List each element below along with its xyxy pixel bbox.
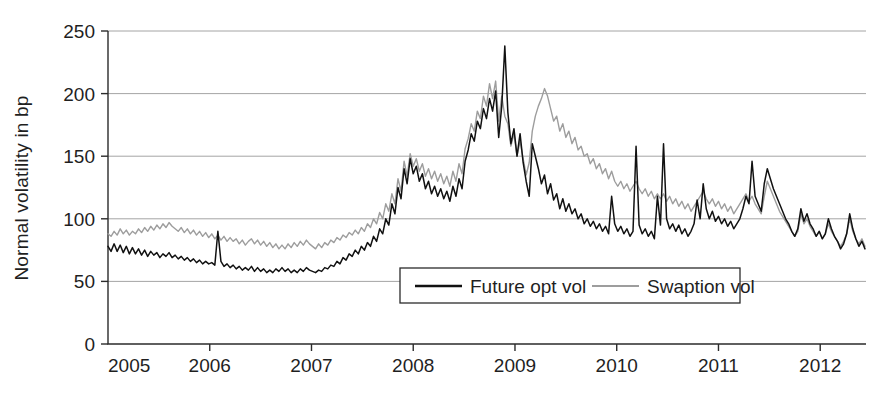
y-tick-label-150: 150 [63, 146, 95, 167]
y-tick-label-100: 100 [63, 209, 95, 230]
x-tick-label-2008: 2008 [392, 355, 434, 376]
x-axis-ticks: 20052006200720082009201020112012 [108, 344, 841, 376]
y-axis-title: Normal volatility in bp [11, 95, 32, 280]
series-lines [108, 46, 865, 273]
x-tick-label-2011: 2011 [698, 355, 739, 376]
x-tick-label-2006: 2006 [189, 355, 231, 376]
y-tick-label-200: 200 [63, 84, 95, 105]
chart-container: Normal volatility in bp 050100150200250 … [0, 0, 885, 413]
x-tick-label-2005: 2005 [108, 355, 150, 376]
legend-label-future-opt-vol: Future opt vol [470, 276, 586, 297]
x-tick-label-2009: 2009 [494, 355, 536, 376]
y-tick-label-50: 50 [74, 271, 95, 292]
chart-legend: Future opt vol Swaption vol [400, 268, 755, 303]
x-tick-label-2012: 2012 [799, 355, 841, 376]
x-tick-label-2007: 2007 [290, 355, 332, 376]
grid-lines [108, 31, 866, 281]
x-tick-label-2010: 2010 [596, 355, 638, 376]
y-tick-label-0: 0 [84, 334, 95, 355]
y-tick-label-250: 250 [63, 21, 95, 42]
legend-label-swaption-vol: Swaption vol [647, 276, 755, 297]
y-axis-ticks: 050100150200250 [63, 21, 108, 355]
volatility-line-chart: Normal volatility in bp 050100150200250 … [0, 0, 885, 413]
